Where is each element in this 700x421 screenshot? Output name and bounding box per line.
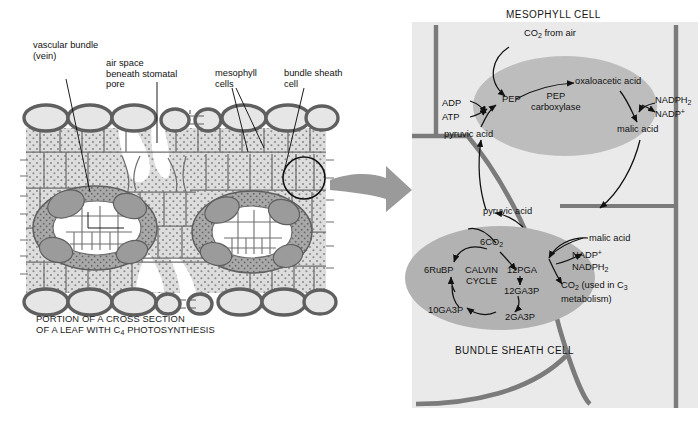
label-air-space: air space beneath stomatal pore xyxy=(106,58,177,90)
label-2ga3p: 2GA3P xyxy=(505,312,535,323)
epidermis-upper xyxy=(24,105,338,131)
figure-svg xyxy=(0,0,700,421)
vascular-bundle-left xyxy=(33,185,157,270)
leaf-cross-section-drawing xyxy=(20,79,412,315)
label-12ga3p: 12GA3P xyxy=(504,286,539,297)
nadph2-bs-base: NADPH xyxy=(572,262,605,272)
nadph2-sub: 2 xyxy=(688,99,692,106)
bundle-sheath-cell-title: BUNDLE SHEATH CELL xyxy=(455,345,574,356)
co2-tail: from air xyxy=(542,28,576,38)
co2-used-line2: metabolism) xyxy=(561,294,612,304)
label-10ga3p: 10GA3P xyxy=(428,305,463,316)
six-co2-sub: 2 xyxy=(499,241,503,248)
label-nadph2-bs: NADPH2 xyxy=(572,262,608,276)
label-pyruvic-acid: pyruvic acid xyxy=(444,129,493,140)
caption-line-2a: OF A LEAF WITH C xyxy=(36,324,120,335)
label-calvin-cycle: CALVIN CYCLE xyxy=(465,265,498,287)
co2-used-tail: (used in C xyxy=(579,280,624,290)
label-malic-acid: malic acid xyxy=(617,124,658,135)
six-co2-base: 6CO xyxy=(480,237,499,247)
label-12pga: 12PGA xyxy=(507,265,537,276)
label-co2-from-air: CO2 from air xyxy=(524,28,576,42)
nadph2-bs-sub: 2 xyxy=(605,266,609,273)
caption-line-1: PORTION OF A CROSS SECTION xyxy=(36,313,185,324)
nadp-bs-sup: + xyxy=(598,249,602,256)
label-6rubp: 6RuBP xyxy=(424,265,453,276)
label-vascular-bundle: vascular bundle (vein) xyxy=(33,40,98,61)
label-pyruvic-acid-bs: pyruvic acid xyxy=(483,206,532,217)
label-adp: ADP xyxy=(442,98,461,109)
label-bundle-sheath-cell: bundle sheath cell xyxy=(284,68,342,89)
label-pep-carboxylase: PEP carboxylase xyxy=(531,91,581,113)
label-mesophyll-cells: mesophyll cells xyxy=(215,68,257,89)
label-6co2: 6CO2 xyxy=(480,237,503,251)
co2-used-sub2: 3 xyxy=(624,284,628,291)
label-oxaloacetic-acid: oxaloacetic acid xyxy=(575,76,641,87)
co2-base: CO xyxy=(524,28,538,38)
figure-root: vascular bundle (vein) air space beneath… xyxy=(0,0,700,421)
label-atp: ATP xyxy=(442,112,459,123)
label-nadp-plus: NADP+ xyxy=(655,107,685,120)
label-co2-used-c3: CO2 (used in C3metabolism) xyxy=(561,280,628,304)
co2-used-base: CO xyxy=(561,280,575,290)
nadph2-base: NADPH xyxy=(655,95,688,105)
vascular-bundle-right xyxy=(192,191,312,273)
nadp-base: NADP xyxy=(655,109,681,119)
nadp-bs-base: NADP xyxy=(572,250,598,260)
label-malic-acid-bs: malic acid xyxy=(589,233,630,244)
label-nadp-plus-bs: NADP+ xyxy=(572,248,602,261)
figure-caption: PORTION OF A CROSS SECTIONOF A LEAF WITH… xyxy=(36,313,215,339)
label-pep: PEP xyxy=(502,94,521,105)
zoom-arrow xyxy=(330,166,412,212)
nadp-sup: + xyxy=(681,108,685,115)
mesophyll-cell-title: MESOPHYLL CELL xyxy=(506,9,601,20)
caption-line-2b: PHOTOSYNTHESIS xyxy=(124,324,214,335)
